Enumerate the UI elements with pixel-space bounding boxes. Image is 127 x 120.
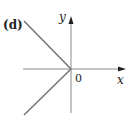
y-axis-arrow-icon: [69, 16, 74, 24]
y-axis-label: y: [59, 11, 66, 23]
x-axis-label: x: [117, 74, 124, 86]
x-axis-arrow-icon: [118, 67, 126, 72]
lower-left-ray: [24, 69, 71, 115]
origin-label: 0: [75, 73, 82, 84]
panel-label: (d): [3, 19, 23, 31]
upper-left-ray: [24, 21, 71, 69]
figure: (d) y x 0: [0, 0, 127, 120]
